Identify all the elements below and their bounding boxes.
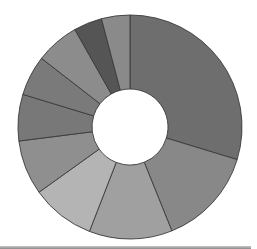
donut-chart	[0, 0, 257, 249]
donut-slice	[130, 15, 242, 160]
donut-slices	[18, 15, 242, 239]
donut-chart-svg	[0, 0, 257, 249]
